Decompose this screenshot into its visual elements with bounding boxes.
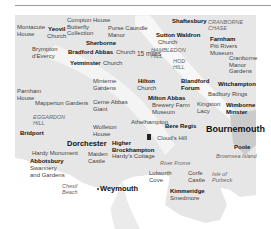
place-corfe-castle: CorfeCastle [188, 170, 205, 183]
place-cerne-abbas: Cerne AbbasGiant [93, 99, 128, 112]
place-mapperton: Mapperton Gardens [35, 100, 88, 107]
place-cranborne-chase: CRANBORNECHASE [208, 19, 243, 31]
place-hilton-church: Church [137, 85, 156, 92]
place-sutton-church: Church [158, 39, 177, 46]
place-milton-abbas: Milton Abbas [148, 95, 185, 102]
place-chesil-beach: ChesilBeach [62, 183, 78, 195]
place-yetminster: Yetminster [70, 60, 101, 67]
place-brympton: Brymptond'Evercy [32, 46, 58, 59]
place-hilton: Hilton [138, 78, 155, 85]
place-sutton-waldron: Sutton Waldron [156, 32, 200, 39]
place-hardy-monument: Hardy Monument [32, 150, 78, 157]
place-swannery: Swanneryand Gardens [30, 165, 65, 178]
place-badbury-rings: Badbury Rings [208, 91, 247, 98]
place-wimborne-minster: WimborneMinster [226, 102, 255, 115]
place-dorchester: Dorchester [67, 140, 107, 148]
place-maiden-castle: MaidenCastle [88, 151, 108, 164]
place-compton-house: Compton HouseButterflyCollection [67, 17, 110, 37]
place-purse-caundle: Purse CaundleManor [108, 25, 148, 38]
cottage-icon [147, 134, 151, 140]
place-sherborne: Sherborne [86, 40, 116, 47]
place-kingston-lacy: KingstonLacy [197, 101, 220, 114]
place-yetminster-church: Church [103, 60, 122, 67]
place-lulworth-cove: LulworthCove [149, 170, 172, 183]
place-higher-brockhampton: HigherBrockhampton [112, 140, 154, 153]
place-hardys-cottage: Hardy's Cottage [112, 153, 155, 160]
place-poole: Poole [234, 144, 250, 151]
place-cranborne-manor: CranborneManorGardens [229, 55, 257, 75]
place-bradford-church: Church [116, 49, 135, 56]
place-minterne: MinterneGardens [93, 78, 116, 91]
place-athelhampton: Athelhampton [131, 119, 168, 126]
place-witchampton: Witchampton [218, 81, 256, 88]
place-bournemouth: Bournemouth [206, 124, 265, 134]
place-yeovil-church: Church [47, 33, 66, 40]
place-abbotsbury: Abbotsbury [30, 158, 64, 165]
place-farnham: Farnham [210, 36, 235, 43]
place-bridport: Bridport [20, 130, 44, 137]
place-yeovil: Yeovil [48, 26, 65, 33]
place-smedmore: Smedmore [170, 195, 199, 202]
place-wolfeton-house: WolfetonHouse [93, 124, 117, 137]
place-weymouth: Weymouth [100, 185, 138, 193]
place-shaftesbury: Shaftesbury [172, 18, 207, 25]
place-blandford-forum: BlandfordForum [181, 78, 209, 91]
place-brewery-farm: Brewery FarmMuseum [152, 102, 190, 115]
place-kimmeridge: Kimmeridge [170, 188, 205, 195]
place-clouds-hill: Cloud's Hill [157, 135, 187, 142]
place-brownsea-island: Brownsea Island [216, 153, 257, 159]
place-isle-of-purbeck: Isle ofPurbeck [212, 171, 232, 183]
top-rule [15, 5, 271, 6]
place-river-frome: River Frome [160, 160, 190, 166]
place-bere-regis: Bere Regis [165, 123, 196, 130]
place-bradford-abbas: Bradford Abbas [68, 49, 113, 56]
place-eggardon-hill: EGGARDONHILL [33, 114, 65, 126]
place-hod-hill: HODHILL [173, 58, 185, 70]
weymouth-dot [97, 188, 99, 190]
place-montacute-house: MontacuteHouse [17, 24, 45, 37]
